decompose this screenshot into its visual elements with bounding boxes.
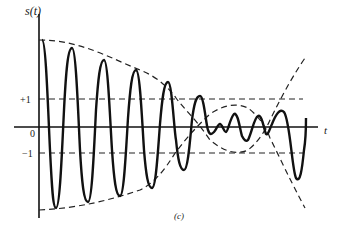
y-axis-label: s(t) — [25, 4, 41, 18]
tick-label-minus-one: −1 — [22, 148, 33, 159]
signal-figure: s(t) t +1 0 −1 (c) — [0, 0, 337, 233]
tick-label-plus-one: +1 — [20, 94, 31, 105]
figure-caption: (c) — [174, 211, 184, 221]
signal-curve — [42, 40, 306, 208]
tick-label-zero: 0 — [30, 128, 35, 139]
x-axis-label: t — [324, 124, 328, 136]
